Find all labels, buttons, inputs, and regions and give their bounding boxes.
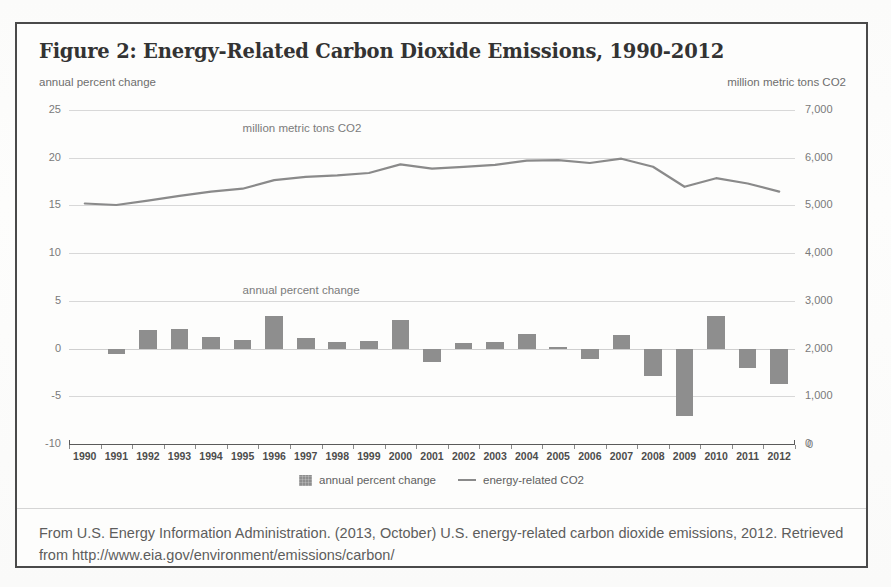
x-axis-tick — [669, 445, 670, 449]
caption-divider — [17, 508, 866, 509]
x-axis-tick — [101, 445, 102, 449]
x-axis-tick — [479, 445, 480, 449]
figure-caption: From U.S. Energy Information Administrat… — [39, 522, 844, 567]
x-axis-tick — [574, 445, 575, 449]
x-axis-tick-label: 1994 — [199, 450, 222, 462]
x-axis-ticks: 1990199119921993199419951996199719981999… — [69, 445, 795, 467]
y-axis-left-tick-label: 10 — [49, 247, 61, 258]
x-axis-tick-label: 2011 — [736, 450, 759, 462]
scanned-page: Figure 2: Energy-Related Carbon Dioxide … — [0, 0, 891, 587]
x-axis-tick — [69, 445, 70, 449]
x-axis-tick — [258, 445, 259, 449]
figure-title: Figure 2: Energy-Related Carbon Dioxide … — [39, 40, 724, 63]
y-axis-right-tick-label: 1,000 — [805, 390, 833, 401]
x-axis-tick — [448, 445, 449, 449]
x-axis-tick — [227, 445, 228, 449]
y-axis-left-tick-label: 20 — [49, 152, 61, 163]
y-axis-right-tick-label: 4,000 — [805, 247, 833, 258]
y-axis-left-tick-label: -10 — [45, 438, 61, 449]
legend-swatch-icon — [299, 475, 312, 486]
x-axis-tick-label: 2009 — [673, 450, 696, 462]
chart-legend: annual percent change energy-related CO2 — [17, 474, 866, 486]
x-axis-tick — [700, 445, 701, 449]
y-axis-left-tick-label: 15 — [49, 199, 61, 210]
x-axis-tick-label: 2000 — [389, 450, 412, 462]
line-series — [69, 110, 795, 444]
left-axis-caption: annual percent change — [39, 76, 156, 88]
y-axis-right-tick-label: 5,000 — [805, 199, 833, 210]
x-axis-tick-label: 1996 — [262, 450, 285, 462]
x-axis-tick-label: 1995 — [231, 450, 254, 462]
legend-line-icon — [458, 479, 476, 481]
chart-plot-area: 2520151050-5-10 7,0006,0005,0004,0003,00… — [69, 110, 795, 444]
x-axis-tick — [542, 445, 543, 449]
x-axis-tick — [795, 445, 796, 449]
y-axis-left-tick-label: 5 — [55, 295, 61, 306]
y-axis-right-tick-label: 7,000 — [805, 104, 833, 115]
x-axis-tick-label: 1999 — [357, 450, 380, 462]
x-axis-tick — [353, 445, 354, 449]
x-axis-tick-label: 1992 — [136, 450, 159, 462]
x-axis-tick — [164, 445, 165, 449]
y-axis-left-tick-label: -5 — [51, 390, 61, 401]
y-axis-left-tick-label: 25 — [49, 104, 61, 115]
legend-label-line: energy-related CO2 — [483, 474, 584, 486]
x-axis-tick — [290, 445, 291, 449]
x-axis-tick — [637, 445, 638, 449]
y-axis-right-tick-label: 3,000 — [805, 295, 833, 306]
legend-item-line: energy-related CO2 — [458, 474, 584, 486]
x-axis-tick-label: 1993 — [168, 450, 191, 462]
x-axis-tick-label: 1998 — [326, 450, 349, 462]
x-axis-tick — [511, 445, 512, 449]
x-axis-tick-label: 2004 — [515, 450, 538, 462]
x-axis-tick-label: 1991 — [105, 450, 128, 462]
x-axis-tick-label: 2008 — [641, 450, 664, 462]
co2-line-path — [85, 159, 779, 205]
x-axis-tick-label: 1990 — [73, 450, 96, 462]
x-axis-tick — [606, 445, 607, 449]
legend-label-bars: annual percent change — [319, 474, 436, 486]
x-axis-tick-label: 2010 — [704, 450, 727, 462]
x-axis-tick — [132, 445, 133, 449]
x-axis-tick-label: 2007 — [610, 450, 633, 462]
y2-axis-zero-label: 0 — [807, 438, 813, 450]
right-axis-caption: million metric tons CO2 — [727, 76, 846, 88]
x-axis-tick-label: 2001 — [420, 450, 443, 462]
x-axis-tick — [195, 445, 196, 449]
y-axis-right-tick-label: 2,000 — [805, 343, 833, 354]
x-axis-tick — [763, 445, 764, 449]
x-axis-tick — [732, 445, 733, 449]
x-axis-tick-label: 2005 — [547, 450, 570, 462]
x-axis-tick — [322, 445, 323, 449]
x-axis-tick-label: 2012 — [768, 450, 791, 462]
x-axis-tick-label: 2002 — [452, 450, 475, 462]
x-axis-tick — [416, 445, 417, 449]
x-axis-tick-label: 1997 — [294, 450, 317, 462]
figure-container: Figure 2: Energy-Related Carbon Dioxide … — [15, 22, 868, 568]
y-axis-right-tick-label: 6,000 — [805, 152, 833, 163]
x-axis-tick — [385, 445, 386, 449]
y-axis-left-tick-label: 0 — [55, 343, 61, 354]
legend-item-bars: annual percent change — [299, 474, 436, 486]
x-axis-tick-label: 2003 — [483, 450, 506, 462]
x-axis-tick-label: 2006 — [578, 450, 601, 462]
